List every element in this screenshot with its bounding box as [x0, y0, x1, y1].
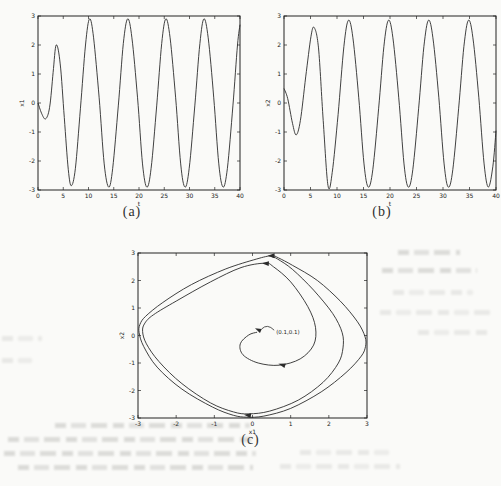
- y-tick-label: 2: [277, 41, 281, 48]
- y-tick-label: -3: [129, 414, 135, 421]
- bleedthrough-smudge: [393, 290, 473, 295]
- x-tick-label: 30: [186, 192, 194, 199]
- y-tick-label: -3: [275, 186, 281, 193]
- y-tick-label: -1: [29, 128, 35, 135]
- bleedthrough-smudge: [380, 310, 492, 315]
- y-tick-label: -2: [29, 157, 35, 164]
- y-tick-label: 3: [277, 12, 281, 19]
- x-tick-label: 5: [309, 192, 313, 199]
- y-tick-label: -3: [29, 186, 35, 193]
- annotation-arrow-line: [262, 326, 275, 330]
- x-tick-label: 0: [251, 420, 255, 427]
- x-tick-label: 20: [386, 192, 394, 199]
- bleedthrough-smudge: [382, 268, 477, 273]
- plot-b-time-series: 0510152025303540-3-2-10123tx2: [250, 0, 501, 225]
- x-tick-label: 10: [85, 192, 93, 199]
- x-tick-label: 10: [333, 192, 341, 199]
- y-tick-label: 1: [31, 70, 35, 77]
- series-curve: [139, 256, 366, 418]
- bleedthrough-smudge: [300, 450, 390, 455]
- y-axis-label: x2: [264, 99, 271, 107]
- bleedthrough-smudge: [4, 451, 256, 456]
- plot-box: [138, 253, 367, 418]
- y-tick-label: 2: [131, 277, 135, 284]
- x-tick-label: 5: [61, 192, 65, 199]
- y-tick-label: -1: [275, 128, 281, 135]
- bleedthrough-smudge: [2, 358, 32, 363]
- x-tick-label: 2: [327, 420, 331, 427]
- x-tick-label: 1: [289, 420, 293, 427]
- caption-panel-b: (b): [264, 204, 500, 220]
- x-tick-label: 25: [160, 192, 168, 199]
- annotation-arrowhead: [254, 326, 262, 333]
- x-tick-label: 25: [413, 192, 421, 199]
- bleedthrough-smudge: [398, 250, 460, 255]
- series-curve: [284, 20, 496, 189]
- y-axis-label: x2: [118, 332, 125, 340]
- y-tick-label: 2: [31, 41, 35, 48]
- x-tick-label: 3: [365, 420, 369, 427]
- y-tick-label: 1: [277, 70, 281, 77]
- x-tick-label: 0: [36, 192, 40, 199]
- bleedthrough-smudge: [280, 464, 400, 469]
- y-tick-label: 3: [131, 249, 135, 256]
- bleedthrough-smudge: [55, 423, 250, 428]
- plot-a-time-series: 0510152025303540-3-2-10123tx1: [0, 0, 250, 225]
- plot-box: [38, 16, 240, 190]
- bleedthrough-smudge: [418, 330, 488, 335]
- x-tick-label: 40: [236, 192, 244, 199]
- scanned-paper-figure: 0510152025303540-3-2-10123tx1 0510152025…: [0, 0, 501, 486]
- x-tick-label: 40: [492, 192, 500, 199]
- y-tick-label: -1: [129, 359, 135, 366]
- y-tick-label: -2: [129, 387, 135, 394]
- direction-arrow: [268, 253, 275, 258]
- y-axis-label: x1: [18, 99, 25, 107]
- y-tick-label: 1: [131, 304, 135, 311]
- y-tick-label: -2: [275, 157, 281, 164]
- series-curve: [38, 19, 240, 187]
- x-tick-label: 30: [439, 192, 447, 199]
- x-tick-label: 15: [360, 192, 368, 199]
- y-tick-label: 0: [131, 332, 135, 339]
- x-tick-label: 0: [282, 192, 286, 199]
- initial-condition-annotation: (0.1,0.1): [276, 329, 300, 335]
- x-tick-label: 15: [110, 192, 118, 199]
- caption-panel-a: (a): [14, 204, 250, 220]
- bleedthrough-smudge: [18, 465, 253, 470]
- series-curve: [143, 257, 344, 414]
- x-tick-label: 35: [466, 192, 474, 199]
- y-tick-label: 0: [31, 99, 35, 106]
- x-tick-label: 20: [135, 192, 143, 199]
- y-tick-label: 0: [277, 99, 281, 106]
- y-tick-label: 3: [31, 12, 35, 19]
- bleedthrough-smudge: [2, 336, 42, 341]
- x-tick-label: 35: [211, 192, 219, 199]
- plot-c-phase-portrait: -3-2-10123-3-2-10123x1x2(0.1,0.1): [118, 238, 383, 443]
- direction-arrow: [262, 261, 269, 266]
- bleedthrough-smudge: [8, 437, 253, 442]
